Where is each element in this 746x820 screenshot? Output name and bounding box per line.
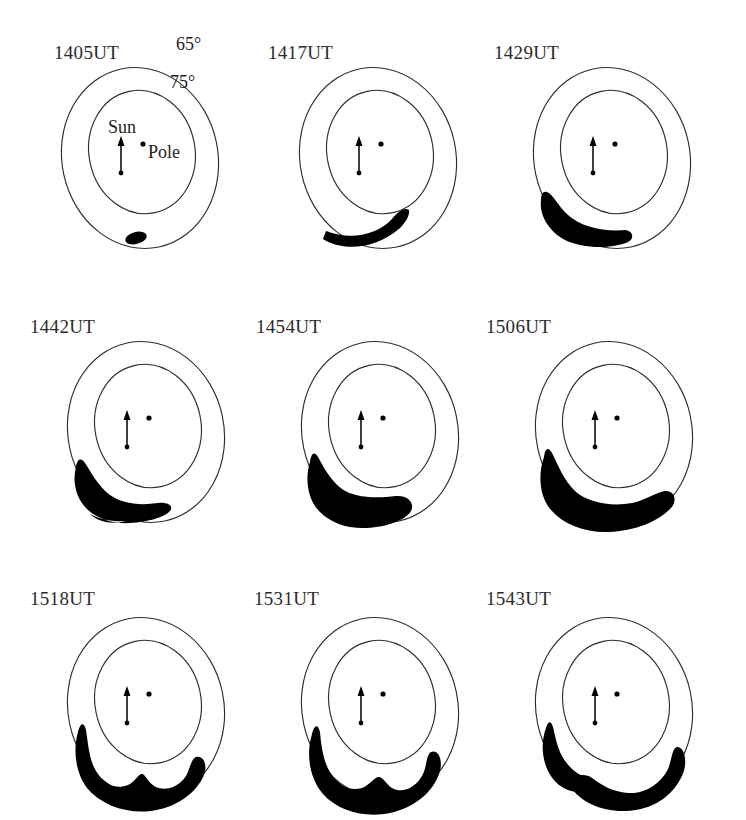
sun-direction-arrow [592,686,599,725]
ring-label-65: 65° [176,34,201,54]
sun-direction-arrow [124,410,131,449]
sun-direction-arrow [124,686,131,725]
panel-1429ut: 1429UT [482,22,730,294]
ring-75-inner [317,354,446,497]
ring-label-75: 75° [170,72,195,92]
ring-75-inner [83,354,212,497]
ring-75-inner [315,80,444,223]
aurora-region [541,192,633,247]
oval-plot [482,296,730,568]
auroral-oval-figure: 1405UT 65° 75° Sun Pole 1417UT [0,0,746,820]
sun-direction-arrow [358,686,365,725]
ring-75-inner [77,80,206,223]
aurora-region [124,230,148,247]
oval-plot [250,296,498,568]
panel-1506ut: 1506UT [482,296,730,568]
sun-label: Sun [108,117,136,137]
ring-65-outer [519,603,709,813]
panel-1442ut: 1442UT [18,296,266,568]
sun-direction-arrow [592,410,599,449]
pole-marker-dot [612,141,617,146]
aurora-region-inner-arc [543,722,590,792]
panel-1454ut: 1454UT [250,296,498,568]
aurora-region [75,460,172,524]
pole-marker-dot [380,415,385,420]
aurora-region [309,726,441,815]
aurora-region [75,724,205,811]
pole-marker-dot [614,691,619,696]
sun-direction-arrow [356,136,363,175]
pole-marker-dot [380,691,385,696]
sun-direction-arrow [590,136,597,175]
aurora-region [323,209,409,247]
ring-75-inner [317,630,446,773]
panel-1543ut: 1543UT [482,566,730,820]
ring-75-inner [551,354,680,497]
panel-1518ut: 1518UT [18,566,266,820]
ring-75-inner [83,630,212,773]
aurora-region [540,449,674,532]
panel-1405ut: 1405UT 65° 75° Sun Pole [18,22,266,294]
pole-marker-dot [146,691,151,696]
oval-plot: 65° 75° Sun Pole [18,22,266,294]
panel-1417ut: 1417UT [250,22,498,294]
aurora-region [307,453,412,528]
oval-plot [482,22,730,294]
ring-75-inner [551,630,680,773]
oval-plot [18,566,266,820]
oval-plot [250,566,498,820]
oval-plot [250,22,498,294]
sun-direction-arrow [118,136,125,175]
pole-label: Pole [148,142,180,162]
pole-marker-dot [378,141,383,146]
panel-1531ut: 1531UT [250,566,498,820]
pole-marker-dot [146,415,151,420]
oval-plot [18,296,266,568]
pole-marker-dot [140,141,145,146]
ring-75-inner [549,80,678,223]
oval-plot [482,566,730,820]
pole-marker-dot [614,415,619,420]
sun-direction-arrow [358,410,365,449]
